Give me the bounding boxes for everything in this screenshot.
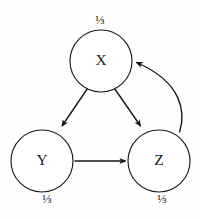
graph-canvas: X Y Z ⅓ ⅓ ⅓ bbox=[0, 0, 200, 219]
node-x-label: X bbox=[95, 51, 106, 68]
node-z-label: Z bbox=[154, 151, 163, 168]
node-z-weight-label: ⅓ bbox=[157, 192, 166, 206]
edge-z-to-x bbox=[137, 63, 182, 133]
node-x[interactable]: X bbox=[70, 30, 132, 92]
node-y-weight-label: ⅓ bbox=[42, 192, 51, 206]
node-layer: X Y Z bbox=[11, 30, 190, 192]
node-x-weight-label: ⅓ bbox=[95, 13, 104, 27]
node-y-label: Y bbox=[36, 151, 47, 168]
edge-x-to-y bbox=[62, 89, 88, 127]
graph-diagram: X Y Z ⅓ ⅓ ⅓ bbox=[0, 0, 200, 219]
node-z[interactable]: Z bbox=[128, 130, 190, 192]
edge-x-to-z bbox=[115, 89, 141, 127]
node-y[interactable]: Y bbox=[11, 130, 73, 192]
